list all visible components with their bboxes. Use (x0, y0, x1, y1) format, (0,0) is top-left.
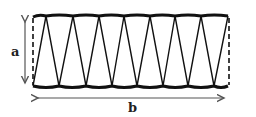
bottom-chord (33, 86, 228, 88)
top-chord (33, 15, 228, 17)
label-a: a (11, 45, 19, 58)
label-b: b (128, 101, 137, 114)
zigzag-web (33, 16, 228, 86)
truss-diagram: a b (0, 0, 256, 117)
